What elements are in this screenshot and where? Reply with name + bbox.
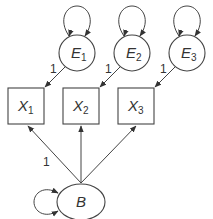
node-e2: E2: [114, 35, 150, 71]
edge-b-x3: [81, 126, 136, 183]
svg-text:B: B: [76, 193, 86, 210]
node-e3: E3: [169, 35, 205, 71]
node-e1: E1: [59, 35, 95, 71]
node-x2: X2: [63, 88, 99, 124]
variance-loop-b: [34, 190, 58, 215]
edge-b-x1: [28, 126, 81, 183]
node-b: B: [57, 184, 105, 219]
loading-label-e1: 1: [50, 62, 57, 76]
variance-loop-e3: [174, 6, 201, 36]
path-diagram: E1 E2 E3 1 1 1 X1 X2 X3 1 B: [0, 0, 213, 219]
node-x1: X1: [8, 88, 44, 124]
node-x3: X3: [118, 88, 154, 124]
loading-label-e2: 1: [105, 62, 112, 76]
loading-label-b-x1: 1: [43, 155, 50, 169]
variance-loop-b-start: [52, 190, 58, 193]
variance-loop-e1: [64, 6, 91, 36]
variance-loop-e2: [119, 6, 146, 36]
loading-label-e3: 1: [160, 62, 167, 76]
